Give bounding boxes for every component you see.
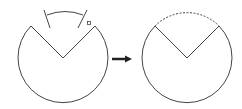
left-circle-arc	[18, 26, 108, 103]
right-v-shape	[155, 26, 219, 58]
detached-arc	[47, 12, 83, 16]
arc-tick-left	[44, 10, 50, 28]
small-square-marker	[88, 22, 91, 25]
left-figure	[18, 10, 108, 103]
right-circle-arc	[142, 26, 232, 103]
right-dashed-arc	[155, 13, 219, 26]
right-figure	[142, 13, 232, 103]
arrow-icon	[112, 56, 132, 63]
arc-tick-right	[78, 10, 87, 28]
left-v-shape	[31, 26, 95, 58]
diagram-canvas	[0, 0, 242, 109]
